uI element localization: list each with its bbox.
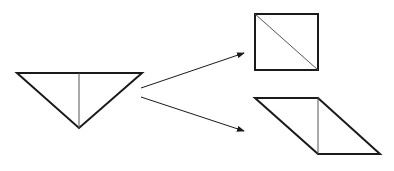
arrows-group xyxy=(141,53,244,131)
arrow-to-parallelogram-icon xyxy=(141,97,244,131)
arrow-to-square-icon xyxy=(141,53,244,88)
triangle-shape xyxy=(17,73,142,128)
square-diagonal-line xyxy=(255,14,318,70)
square-shape xyxy=(255,14,318,70)
parallelogram-shape xyxy=(255,98,380,154)
diagram-canvas xyxy=(0,0,394,171)
